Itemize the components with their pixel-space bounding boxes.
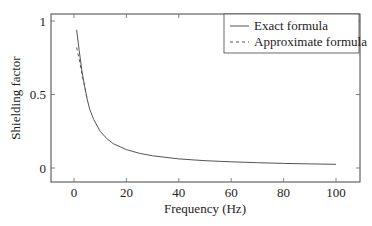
x-axis-label: Frequency (Hz)	[164, 201, 246, 216]
x-tick-label: 100	[326, 185, 346, 200]
approximate-formula-line	[77, 48, 88, 99]
y-tick-label: 0.5	[30, 87, 46, 102]
legend: Exact formula Approximate formula	[224, 14, 367, 53]
legend-label-approximate: Approximate formula	[254, 34, 367, 49]
chart-canvas: 020406080100 00.51 Frequency (Hz) Shield…	[0, 0, 372, 226]
x-tick-label: 20	[120, 185, 133, 200]
x-tick-label: 40	[172, 185, 185, 200]
x-tick-label: 0	[71, 185, 78, 200]
y-tick-label: 0	[40, 161, 47, 176]
y-axis-label: Shielding factor	[8, 56, 23, 140]
legend-label-exact: Exact formula	[254, 18, 328, 33]
x-tick-label: 60	[225, 185, 238, 200]
x-tick-label: 80	[277, 185, 290, 200]
y-tick-label: 1	[40, 14, 47, 29]
